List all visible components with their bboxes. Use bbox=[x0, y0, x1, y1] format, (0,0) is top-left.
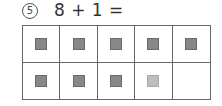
counter-square bbox=[147, 38, 159, 50]
counter-square bbox=[110, 75, 122, 87]
ten-frame-cell bbox=[60, 26, 97, 63]
problem-number-circle: 5 bbox=[22, 3, 38, 19]
ten-frame-cell bbox=[173, 63, 210, 100]
ten-frame bbox=[22, 25, 211, 100]
counter-square bbox=[35, 38, 47, 50]
counter-square bbox=[185, 38, 197, 50]
counter-square bbox=[110, 38, 122, 50]
ten-frame-cell bbox=[98, 26, 135, 63]
ten-frame-cell bbox=[173, 26, 210, 63]
ten-frame-cell bbox=[135, 26, 172, 63]
counter-square bbox=[73, 38, 85, 50]
counter-square bbox=[73, 75, 85, 87]
ten-frame-cell bbox=[98, 63, 135, 100]
ten-frame-cell bbox=[23, 63, 60, 100]
ten-frame-cell bbox=[23, 26, 60, 63]
ten-frame-cell bbox=[60, 63, 97, 100]
ten-frame-cell bbox=[135, 63, 172, 100]
equation-text: 8 + 1 = bbox=[54, 0, 124, 20]
light-counter-square bbox=[147, 75, 159, 87]
problem-number: 5 bbox=[27, 5, 33, 16]
counter-square bbox=[35, 75, 47, 87]
